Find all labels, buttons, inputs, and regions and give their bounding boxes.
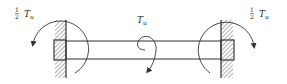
torsion-diagram: 1 2 T u 1 2 T u T u [0, 0, 287, 84]
svg-text:u: u [143, 19, 147, 26]
applied-torque-label: T u [137, 15, 147, 26]
right-reaction-label: 1 2 T u [250, 6, 269, 20]
svg-text:1: 1 [250, 6, 254, 13]
left-fixed-support [54, 20, 66, 78]
right-fixed-support [221, 20, 234, 78]
svg-text:u: u [265, 13, 269, 20]
svg-text:2: 2 [250, 13, 254, 20]
svg-text:2: 2 [15, 13, 19, 20]
left-reaction-label: 1 2 T u [15, 6, 34, 20]
svg-text:u: u [30, 13, 34, 20]
svg-text:1: 1 [15, 6, 19, 13]
